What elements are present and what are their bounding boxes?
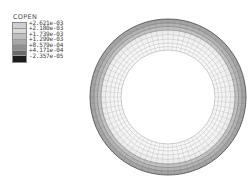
mesh-ring-band [114,43,222,151]
legend-value-list: +2.621e-03+2.180e-03+1.739e-03+1.299e-03… [29,20,63,59]
legend-value: -2.357e-05 [29,53,63,59]
mesh-ring-line [121,50,215,144]
mesh-ring-band [110,39,226,155]
mesh-ring-band [106,35,231,160]
mesh-ring-band [118,47,219,148]
mesh-circumferential-rings [90,19,246,175]
annular-mesh-svg [88,16,248,182]
contour-legend: COPEN +2.621e-03+2.180e-03+1.739e-03+1.2… [12,13,98,63]
legend-color-bar [12,22,27,63]
figure-viewport: COPEN +2.621e-03+2.180e-03+1.739e-03+1.2… [0,0,248,186]
annular-mesh-figure [88,16,248,182]
legend-body: +2.621e-03+2.180e-03+1.739e-03+1.299e-03… [12,22,98,63]
legend-swatch [13,56,26,62]
